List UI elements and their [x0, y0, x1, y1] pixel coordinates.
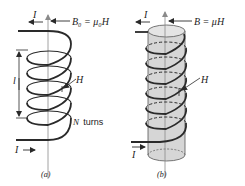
turns-label-a: N turns: [72, 117, 104, 127]
field-label-b: B = μH: [194, 16, 225, 27]
length-label: l: [13, 75, 16, 86]
caption-a: (a): [41, 170, 51, 179]
caption-b: (b): [157, 170, 167, 179]
coil-a-front: [16, 31, 71, 140]
panel-a: l I B₀ = μ₀H H N turns I (a): [13, 9, 110, 179]
current-label-bottom-a: I: [14, 144, 19, 155]
H-label-a: H: [75, 74, 84, 85]
current-label-bottom-b: I: [131, 149, 136, 160]
current-label-top-b: I: [143, 9, 148, 20]
length-dimension-a: [16, 50, 28, 118]
solenoid-diagram: l I B₀ = μ₀H H N turns I (a): [0, 0, 245, 186]
H-label-b: H: [200, 74, 209, 85]
field-label-a: B₀ = μ₀H: [72, 16, 110, 27]
panel-b: I B = μH H I (b): [131, 9, 225, 179]
current-label-top-a: I: [32, 9, 37, 20]
